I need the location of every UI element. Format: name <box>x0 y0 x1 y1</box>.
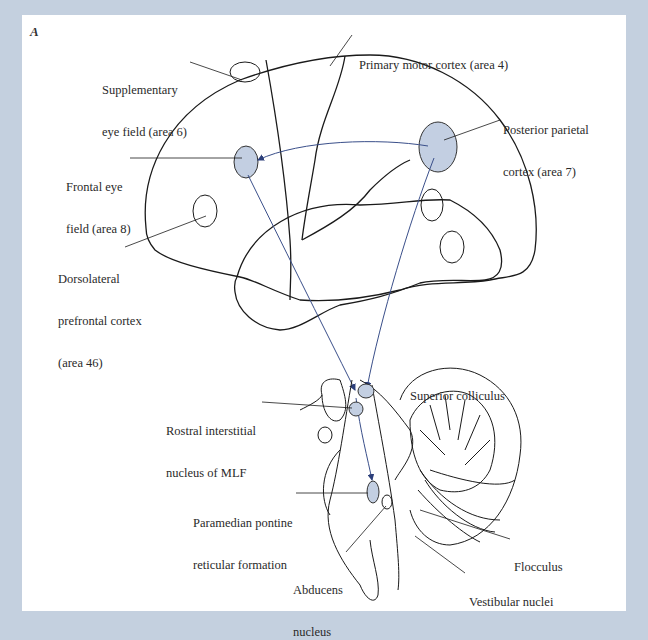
label-superior-colliculus: Superior colliculus <box>410 361 505 417</box>
fef-to-colliculus-pathway <box>248 175 355 390</box>
label-primary-motor-cortex: Primary motor cortex (area 4) <box>359 30 508 86</box>
label-frontal-eye-field: Frontal eye field (area 8) <box>66 152 131 250</box>
parietal-to-fef-pathway <box>258 142 428 160</box>
label-abducens-nucleus: Abducens nucleus <box>293 555 343 640</box>
cortical-areas <box>193 62 464 263</box>
frontal-eye-field-area <box>234 146 258 178</box>
posterior-parietal-area <box>419 122 457 172</box>
label-rostral-interstitial-nucleus: Rostral interstitial nucleus of MLF <box>166 396 256 494</box>
label-dorsolateral-prefrontal-cortex: Dorsolateral prefrontal cortex (area 46) <box>58 244 142 384</box>
parietal-minor-area-2 <box>440 231 464 263</box>
superior-colliculus-nucleus <box>358 384 374 398</box>
pathways <box>248 142 434 480</box>
label-supplementary-eye-field: Supplementary eye field (area 6) <box>102 55 187 153</box>
label-paramedian-pontine-reticular-formation: Paramedian pontine reticular formation <box>193 488 293 586</box>
parietal-to-colliculus-pathway <box>367 158 434 388</box>
brainstem-nuclei <box>349 384 392 509</box>
cerebral-cortex-outline <box>145 55 536 330</box>
panel-letter: A <box>30 24 39 40</box>
label-posterior-parietal-cortex: Posterior parietal cortex (area 7) <box>503 95 589 193</box>
supplementary-eye-field-area <box>230 62 260 82</box>
pprf-nucleus <box>367 481 379 503</box>
label-vestibular-nuclei: Vestibular nuclei <box>469 567 553 623</box>
parietal-minor-area-1 <box>421 189 443 221</box>
rimlf-nucleus <box>349 402 363 416</box>
abducens-nucleus-shape <box>382 495 392 509</box>
dorsolateral-prefrontal-area <box>193 195 217 227</box>
